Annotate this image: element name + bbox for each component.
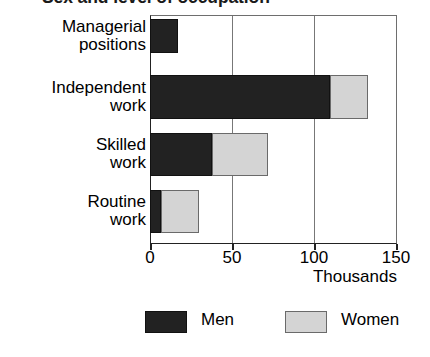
bar-segment-independent-work-men	[150, 75, 330, 119]
bars-layer	[0, 0, 430, 357]
tick-label-0: 0	[130, 248, 170, 268]
tick-label-50: 50	[212, 248, 252, 268]
tick-label-100: 100	[294, 248, 334, 268]
bar-segment-skilled-work-men	[150, 133, 212, 176]
legend-label-men: Men	[201, 310, 234, 330]
bar-segment-skilled-work-women	[212, 133, 268, 176]
legend-label-women: Women	[341, 310, 399, 330]
bar-segment-routine-work-women	[161, 190, 199, 233]
bar-segment-independent-work-women	[330, 75, 368, 119]
legend-swatch-men	[145, 311, 187, 333]
bar-segment-routine-work-men	[150, 190, 161, 233]
legend-swatch-women	[285, 311, 327, 333]
chart-legend: Men Women	[0, 309, 430, 339]
bar-chart: Sex and level of occupation Managerial p…	[0, 0, 430, 357]
bar-segment-managerial-positions-men	[150, 19, 178, 53]
x-axis-unit-label: Thousands	[237, 267, 397, 287]
tick-label-150: 150	[376, 248, 416, 268]
